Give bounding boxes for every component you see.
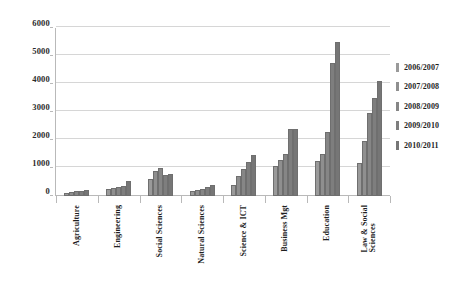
bar-group — [56, 28, 98, 196]
legend-item[interactable]: 2006/2007 — [396, 62, 466, 72]
x-axis-tick-mark — [140, 196, 141, 203]
bar-group — [98, 28, 140, 196]
legend-label: 2006/2007 — [404, 63, 439, 72]
legend-item[interactable]: 2007/2008 — [396, 82, 466, 92]
legend-label: 2009/2010 — [404, 121, 439, 130]
x-axis-labels: AgricultureEngineeringSocial SciencesNat… — [56, 205, 390, 283]
y-axis-tick-label: 6000 — [32, 18, 50, 28]
bar[interactable] — [377, 81, 382, 196]
bar-group — [265, 28, 307, 196]
x-axis-category-label: Social Sciences — [156, 205, 164, 257]
x-axis-category-label: Business Mgt — [281, 205, 289, 252]
bar-group — [348, 28, 390, 196]
x-axis-label-cell: Science & ICT — [223, 205, 265, 283]
x-axis-label-cell: Business Mgt — [265, 205, 307, 283]
x-axis-tick-mark — [56, 196, 57, 203]
legend-label: 2008/2009 — [404, 102, 439, 111]
y-axis-tick-mark — [50, 139, 53, 140]
x-axis-category-label: Natural Sciences — [198, 205, 206, 264]
y-axis-tick-label: 4000 — [32, 74, 50, 84]
legend-item[interactable]: 2010/2011 — [396, 140, 466, 150]
x-axis-label-cell: Agriculture — [56, 205, 98, 283]
bar[interactable] — [293, 129, 298, 196]
bar[interactable] — [251, 155, 256, 196]
x-axis-label-cell: Social Sciences — [140, 205, 182, 283]
y-axis-tick-mark — [50, 55, 53, 56]
legend-label: 2010/2011 — [404, 141, 439, 150]
chart-legend: 2006/20072007/20082008/20092009/20102010… — [396, 62, 466, 150]
bar-group — [307, 28, 349, 196]
x-axis-tick-mark — [307, 196, 308, 203]
legend-swatch-icon — [396, 141, 399, 150]
bar[interactable] — [335, 42, 340, 196]
legend-label: 2007/2008 — [404, 82, 439, 91]
x-axis-tick-mark — [223, 196, 224, 203]
bar[interactable] — [168, 174, 173, 196]
x-axis-label-cell: Natural Sciences — [181, 205, 223, 283]
y-axis-tick-mark — [50, 111, 53, 112]
y-axis-tick-label: 3000 — [32, 102, 50, 112]
x-axis-label-cell: Education — [307, 205, 349, 283]
y-axis-tick-label: 2000 — [32, 130, 50, 140]
y-axis: 0100020003000400050006000 — [0, 28, 50, 196]
bar-group — [223, 28, 265, 196]
legend-swatch-icon — [396, 121, 399, 130]
bar-group — [140, 28, 182, 196]
bar-group — [181, 28, 223, 196]
x-axis-ticks — [56, 196, 390, 204]
bar-chart: 0100020003000400050006000 AgricultureEng… — [0, 0, 469, 283]
legend-swatch-icon — [396, 63, 399, 72]
y-axis-tick-label: 5000 — [32, 46, 50, 56]
x-axis-label-cell: Engineering — [98, 205, 140, 283]
x-axis-tick-mark — [348, 196, 349, 203]
y-axis-tick-mark — [50, 83, 53, 84]
x-axis-category-label: Science & ICT — [240, 205, 248, 257]
x-axis-tick-mark — [181, 196, 182, 203]
x-axis-tick-mark — [265, 196, 266, 203]
y-axis-tick-mark — [50, 167, 53, 168]
bar[interactable] — [126, 181, 131, 196]
x-axis-tick-mark — [98, 196, 99, 203]
bar[interactable] — [210, 185, 215, 196]
x-axis-category-label: Education — [323, 205, 331, 241]
x-axis-tick-mark — [390, 196, 391, 203]
legend-item[interactable]: 2008/2009 — [396, 101, 466, 111]
legend-swatch-icon — [396, 82, 399, 91]
x-axis-category-label: Engineering — [114, 205, 122, 248]
x-axis-category-label: Law & Social Sciences — [361, 205, 378, 252]
legend-swatch-icon — [396, 102, 399, 111]
bar-groups — [56, 28, 390, 196]
y-axis-tick-mark — [50, 195, 53, 196]
x-axis-category-label: Agriculture — [73, 205, 81, 246]
legend-item[interactable]: 2009/2010 — [396, 121, 466, 131]
gridline — [56, 26, 390, 27]
y-axis-tick-label: 1000 — [32, 158, 50, 168]
x-axis-label-cell: Law & Social Sciences — [348, 205, 390, 283]
y-axis-tick-mark — [50, 27, 53, 28]
